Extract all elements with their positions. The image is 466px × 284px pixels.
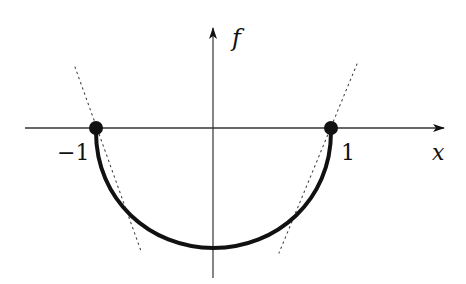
- endpoint-dot-left: [89, 121, 103, 135]
- endpoint-dot-right: [324, 121, 338, 135]
- plot-canvas: −1 1 x f: [0, 0, 466, 284]
- x-tick-label-1: 1: [341, 140, 355, 165]
- x-tick-label-neg1: −1: [57, 140, 89, 165]
- y-axis-label: f: [230, 24, 245, 52]
- x-axis-label: x: [432, 140, 445, 165]
